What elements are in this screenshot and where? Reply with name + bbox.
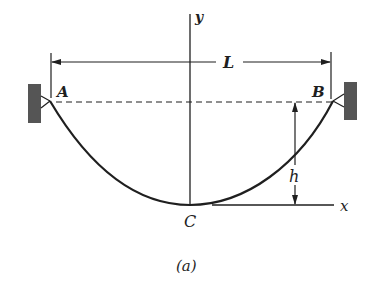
- cable-curve: [50, 101, 333, 205]
- label-span-l: L: [222, 53, 234, 72]
- cable-diagram: A B C L h x y (a): [0, 0, 381, 299]
- label-point-c: C: [184, 212, 196, 231]
- label-y-axis: y: [194, 9, 204, 25]
- right-hinge-upper: [333, 94, 344, 101]
- right-hinge-lower: [333, 101, 344, 107]
- right-wall: [344, 82, 357, 120]
- left-wall: [28, 84, 41, 123]
- label-x-axis: x: [340, 197, 349, 215]
- label-point-a: A: [55, 83, 69, 101]
- figure-caption: (a): [176, 257, 197, 275]
- label-sag-h: h: [289, 167, 299, 186]
- left-hinge-upper: [41, 96, 50, 101]
- label-point-b: B: [311, 83, 325, 101]
- left-hinge-lower: [41, 101, 50, 108]
